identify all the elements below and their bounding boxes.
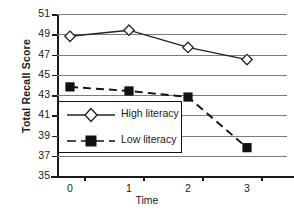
data-point-filled-square (183, 92, 192, 101)
data-point-open-diamond (183, 42, 193, 52)
data-point-filled-square (65, 82, 74, 91)
legend-marker-open-diamond (65, 102, 117, 128)
legend-item-high-literacy: High literacy (59, 102, 181, 128)
legend-label-high-literacy: High literacy (121, 107, 179, 119)
data-point-open-diamond (242, 54, 252, 64)
data-point-open-diamond (65, 31, 75, 41)
legend-marker-filled-square (65, 128, 117, 154)
data-point-filled-square (124, 86, 133, 95)
data-point-filled-square (242, 143, 251, 152)
chart-figure: Total Recall Score 353739414345474951 01… (0, 0, 294, 210)
legend-item-low-literacy: Low literacy (59, 128, 181, 154)
chart-legend: High literacy Low literacy (58, 101, 182, 153)
legend-label-low-literacy: Low literacy (121, 133, 176, 145)
data-point-open-diamond (124, 25, 134, 35)
series-line (70, 30, 247, 59)
